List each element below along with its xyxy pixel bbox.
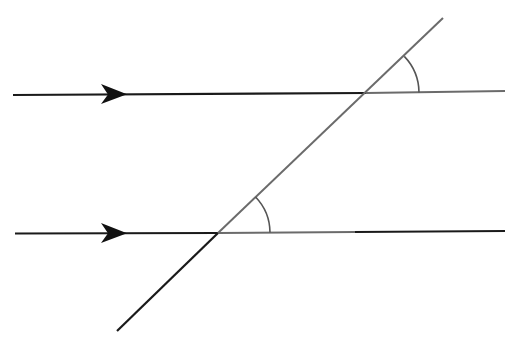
parallel-lines-diagram [0,0,520,343]
lower-parallel-line [15,223,505,243]
upper-parallel-line [13,84,505,104]
lower-angle-arc [256,197,270,233]
transversal-line [117,18,443,331]
upper-angle-arc [404,56,419,92]
